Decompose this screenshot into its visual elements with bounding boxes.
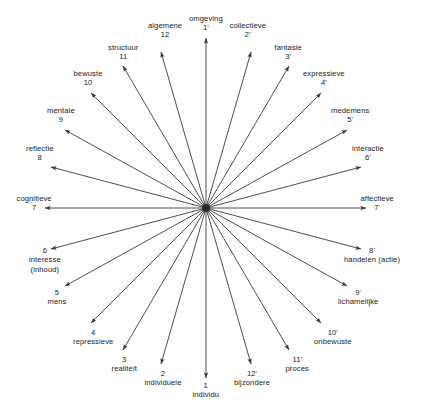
spoke-arrow-4 (91, 210, 204, 323)
spoke-arrow-12 (161, 52, 205, 205)
spoke-label-2: 2individuele (145, 369, 182, 388)
spoke-label-1p: omgeving1' (189, 14, 223, 33)
spoke-label-name: handelen (actie) (344, 255, 400, 264)
spoke-label-11p: 11'proces (286, 355, 309, 374)
spoke-arrow-8p (209, 209, 361, 249)
spoke-label-name: fantasie (275, 43, 302, 52)
spoke-label-9: mentale9 (47, 106, 75, 125)
spoke-label-8p: 8'handelen (actie) (344, 246, 400, 265)
spoke-label-10: bewuste10 (74, 69, 103, 88)
spoke-label-name: mens (48, 297, 67, 306)
spoke-label-2p: collectieve2' (230, 21, 267, 40)
spoke-label-number: 3 (112, 355, 137, 364)
spoke-label-4p: expressieve4' (303, 69, 345, 88)
spoke-label-name: lichamelijke (338, 297, 378, 306)
spoke-label-name: interactie (352, 144, 384, 153)
spoke-arrow-8 (51, 167, 203, 207)
spoke-label-name: onbewuste (314, 337, 352, 346)
spoke-label-name: structuur (108, 43, 138, 52)
spoke-label-number: 8 (26, 153, 54, 162)
spoke-label-6: 6interesse(inhoud) (29, 246, 61, 274)
spoke-label-1: 1individu (193, 381, 220, 400)
spoke-label-4: 4repressieve (73, 328, 113, 347)
spoke-label-number: 5' (331, 115, 369, 124)
spoke-label-name: algemene (148, 21, 182, 30)
spoke-label-name: collectieve (230, 21, 267, 30)
spoke-label-number: 7' (361, 203, 394, 212)
spoke-label-5: 5mens (48, 288, 67, 307)
spoke-label-number: 8' (344, 246, 400, 255)
spoke-label-name: bijzondere (234, 378, 270, 387)
spoke-label-12: algemene12 (148, 21, 182, 40)
spoke-arrow-2p (207, 52, 251, 205)
spoke-label-number: 12 (148, 30, 182, 39)
spoke-label-number: 7 (17, 203, 52, 212)
spoke-arrow-4p (208, 93, 321, 206)
spoke-label-name: proces (286, 364, 309, 373)
center-hub (202, 204, 210, 212)
spoke-label-number: 6' (352, 153, 384, 162)
spoke-label-5p: medemens5' (331, 106, 369, 125)
spoke-label-name: mentale (47, 106, 75, 115)
spoke-label-number: 5 (48, 288, 67, 297)
spoke-label-number: 12' (234, 369, 270, 378)
spoke-label-number: 2 (145, 369, 182, 378)
spoke-arrow-6 (51, 209, 203, 249)
spoke-label-number: 1' (189, 23, 223, 32)
spoke-label-name: affectieve (361, 194, 394, 203)
spoke-label-name: realiteit (112, 364, 137, 373)
spoke-label-name: individuele (145, 378, 182, 387)
diagram-canvas: 1individu2individuele3realiteit4repressi… (0, 0, 421, 415)
spoke-label-8: reflectie8 (26, 144, 54, 163)
spoke-label-number: 10 (74, 78, 103, 87)
spoke-label-3: 3realiteit (112, 355, 137, 374)
spoke-label-12p: 12'bijzondere (234, 369, 270, 388)
radial-spokes-svg (0, 0, 421, 415)
spoke-label-name: interesse(inhoud) (29, 255, 61, 274)
spoke-label-number: 2' (230, 30, 267, 39)
spoke-label-name: cognitieve (17, 194, 52, 203)
spoke-label-3p: fantasie3' (275, 43, 302, 62)
spoke-arrow-6p (209, 167, 361, 207)
spoke-label-number: 9' (338, 288, 378, 297)
spoke-label-number: 11' (286, 355, 309, 364)
spoke-arrow-10p (208, 210, 321, 323)
spoke-label-number: 9 (47, 115, 75, 124)
spoke-arrow-12p (207, 211, 251, 364)
spoke-label-name: individu (193, 390, 220, 399)
spoke-label-7p: affectieve7' (361, 194, 394, 213)
spoke-label-number: 6 (29, 246, 61, 255)
spoke-label-name: reflectie (26, 144, 54, 153)
spoke-label-number: 3' (275, 52, 302, 61)
spoke-label-name: repressieve (73, 337, 113, 346)
spoke-label-10p: 10'onbewuste (314, 328, 352, 347)
spoke-label-number: 10' (314, 328, 352, 337)
spoke-label-name: expressieve (303, 69, 345, 78)
spoke-label-number: 4 (73, 328, 113, 337)
spoke-label-9p: 9'lichamelijke (338, 288, 378, 307)
spoke-label-name: medemens (331, 106, 369, 115)
spoke-label-7: cognitieve7 (17, 194, 52, 213)
spoke-label-number: 11 (108, 52, 138, 61)
spoke-label-number: 4' (303, 78, 345, 87)
spoke-label-6p: interactie6' (352, 144, 384, 163)
spoke-label-number: 1 (193, 381, 220, 390)
spoke-arrow-2 (161, 211, 205, 364)
spoke-label-name: omgeving (189, 14, 223, 23)
spoke-label-name: bewuste (74, 69, 103, 78)
spoke-arrow-10 (91, 93, 204, 206)
spoke-label-11: structuur11 (108, 43, 138, 62)
